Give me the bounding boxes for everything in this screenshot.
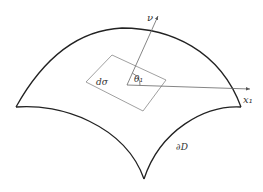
angle-label: θ₁ bbox=[134, 74, 143, 84]
boundary-label: ∂D bbox=[176, 142, 188, 152]
normal-label: ν bbox=[147, 12, 153, 23]
surface-element-label: dσ bbox=[96, 77, 109, 87]
surface-top-edge bbox=[16, 28, 241, 107]
surface-left-bottom-edge bbox=[16, 107, 144, 179]
x1-axis-label: x₁ bbox=[243, 94, 253, 105]
surface-right-bottom-edge bbox=[144, 107, 241, 179]
surface-diagram: ν dσ θ₁ x₁ ∂D bbox=[0, 0, 263, 192]
